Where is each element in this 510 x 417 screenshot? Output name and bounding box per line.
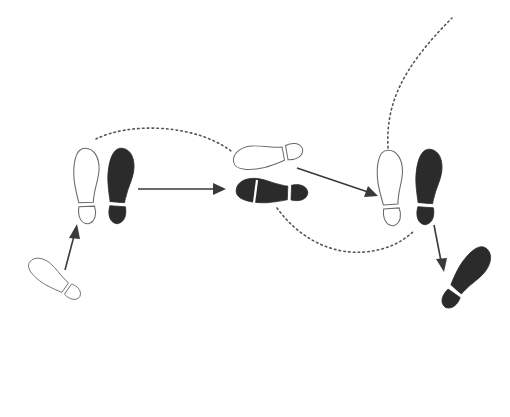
footprint-filled-step-4 [413,148,444,225]
footprint-outline-step-3 [231,137,304,173]
heel-gap-step-4 [415,204,439,206]
heel-gap-step-2 [107,203,131,205]
arrow-step-4-to-5 [434,225,447,272]
arrow-step-2-to-3 [138,183,226,195]
footprint-filled-step-3 [236,178,309,205]
footprint-outline-step-2 [73,148,101,225]
footprints [24,137,496,314]
footprint-filled-step-5 [435,242,496,315]
footprint-filled-step-2 [105,147,136,224]
dotted-path-arc-over [96,128,231,151]
arrow-step-1-to-2 [65,224,80,270]
arrow-step-3-to-4 [297,168,378,197]
footprint-outline-start [24,253,86,305]
dance-step-diagram [0,0,510,417]
dotted-path-sweep-up [388,18,452,148]
footprint-outline-step-4 [376,149,407,226]
